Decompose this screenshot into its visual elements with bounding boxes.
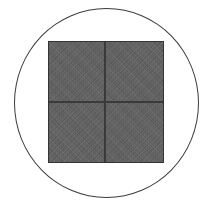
quadrant-top-right [106,42,163,102]
quadrant-bottom-right [106,102,163,162]
quadrant-top-left [49,42,106,102]
divider-horizontal-line [49,101,163,103]
caption-clipped [0,216,215,224]
figure-canvas [0,0,215,224]
textured-quad-square [48,41,164,163]
quadrant-bottom-left [49,102,106,162]
